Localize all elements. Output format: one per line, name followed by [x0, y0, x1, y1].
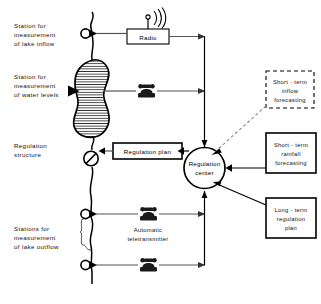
telephone-icon-outflow-lower [140, 258, 157, 272]
short-term-inflow-line-1: Short - term [273, 79, 307, 85]
label-stations-lake-outflow: Stations for measurement of lake outflow [14, 225, 59, 250]
antenna-icon [146, 8, 166, 30]
regulation-scheme-diagram: Station for measurement of lake inflow S… [0, 0, 321, 304]
station-water-levels-line-1: Station for [14, 73, 46, 80]
station-lake-inflow-line-3: of lake inflow [14, 40, 55, 47]
station-lake-inflow-line-1: Station for [14, 22, 46, 29]
link-inflow-forecast-to-center [212, 106, 267, 155]
gauge-station-icon-outflow-lower [81, 260, 97, 269]
radio-node[interactable]: Radio [127, 29, 169, 44]
label-station-lake-inflow: Station for measurement of lake inflow [14, 22, 56, 47]
regulation-center-line-1: Regulation [189, 160, 221, 167]
label-station-water-levels: Station for measurement of water levels [14, 73, 59, 98]
valve-icon [84, 151, 98, 165]
teletransmitter-label: Automatic teletransmitter [127, 227, 168, 242]
stations-lake-outflow-line-1: Stations for [14, 225, 50, 232]
long-term-plan-line-2: regulation [277, 216, 305, 222]
telephone-icon-water-levels [138, 84, 155, 97]
short-term-rainfall-line-1: Short - term [274, 142, 308, 148]
teletransmitter-line-2: teletransmitter [127, 236, 168, 242]
long-term-plan-line-3: plan [285, 225, 297, 231]
regulation-plan-node[interactable]: Regulation plan [113, 143, 182, 159]
long-term-regulation-plan-node[interactable]: Long - term regulation plan [266, 198, 316, 238]
short-term-rainfall-forecasting-node[interactable]: Short - term rainfall forecasting [266, 133, 316, 173]
link-rainfall-forecast-to-center [226, 164, 267, 171]
link-regulation-plan-to-valve [99, 148, 114, 155]
regulation-plan-label: Regulation plan [124, 148, 172, 155]
lake-shape [74, 60, 110, 138]
regulation-center-line-2: center [195, 169, 213, 176]
teletransmitter-line-1: Automatic [134, 227, 162, 233]
short-term-inflow-line-2: inflow [282, 88, 299, 94]
station-water-levels-line-2: measurement [14, 82, 56, 89]
river-mid [92, 137, 94, 150]
station-lake-inflow-line-2: measurement [14, 31, 56, 38]
gauge-station-icon-outflow-upper [81, 209, 97, 218]
stations-lake-outflow-line-2: measurement [14, 234, 56, 241]
link-long-term-plan-to-center [213, 182, 267, 206]
short-term-rainfall-line-3: forecasting [275, 160, 307, 166]
gauge-station-icon-inflow [81, 29, 97, 38]
label-regulation-structure: Regulation structure [14, 142, 47, 158]
regulation-structure-line-2: structure [14, 151, 41, 158]
short-term-inflow-line-3: forecasting [274, 97, 306, 103]
radio-label: Radio [139, 34, 157, 41]
station-water-levels-line-3: of water levels [14, 91, 59, 98]
telephone-icon-teletransmitter [140, 207, 157, 221]
regulation-structure-line-1: Regulation [14, 142, 47, 149]
stations-lake-outflow-line-3: of lake outflow [14, 243, 59, 250]
long-term-plan-line-1: Long - term [275, 207, 308, 213]
short-term-inflow-forecasting-node[interactable]: Short - term inflow forecasting [266, 71, 314, 108]
short-term-rainfall-line-2: rainfall [281, 151, 300, 157]
